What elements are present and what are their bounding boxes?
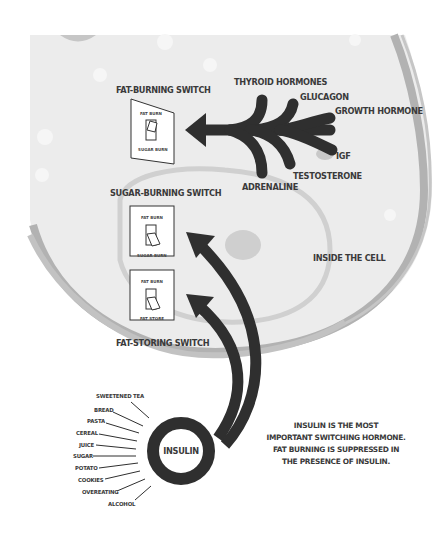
hormone-label: GLUCAGON <box>300 92 349 102</box>
svg-text:FAT BURNING IS SUPPRESSED IN: FAT BURNING IS SUPPRESSED IN <box>273 445 399 454</box>
hormone-label: TESTOSTERONE <box>293 171 362 181</box>
hormone-label: ADRENALINE <box>242 182 298 192</box>
diagram: FAT-BURNING SWITCH FAT BURN SUGAR BURN S… <box>0 0 444 543</box>
switch-title: FAT-STORING SWITCH <box>116 338 210 348</box>
trigger-labels: SWEETENED TEA BREAD PASTA CEREAL JUICE S… <box>73 393 145 507</box>
svg-text:FAT BURN: FAT BURN <box>141 279 163 284</box>
insulin-label: INSULIN <box>163 446 199 456</box>
toggle-icon <box>146 120 157 140</box>
nucleolus <box>225 230 261 260</box>
svg-text:SUGAR BURN: SUGAR BURN <box>137 253 167 258</box>
svg-text:FAT BURN: FAT BURN <box>141 215 163 220</box>
svg-text:FAT STORE: FAT STORE <box>140 316 164 321</box>
switch-title: FAT-BURNING SWITCH <box>116 85 211 95</box>
trigger-label: SUGAR <box>73 453 94 459</box>
trigger-label: OVEREATING <box>82 489 119 495</box>
trigger-label: ALCOHOL <box>108 501 136 507</box>
trigger-label: POTATO <box>75 465 98 471</box>
hormone-label: GROWTH HORMONE <box>335 106 423 116</box>
svg-text:SUGAR BURN: SUGAR BURN <box>138 147 168 152</box>
hormone-label: IGF <box>336 151 350 161</box>
hormone-label: THYROID HORMONES <box>234 77 327 87</box>
insulin-node: INSULIN <box>153 423 209 479</box>
trigger-label: SWEETENED TEA <box>96 393 145 399</box>
svg-text:THE PRESENCE OF INSULIN.: THE PRESENCE OF INSULIN. <box>282 457 391 466</box>
svg-text:INSULIN IS THE MOST: INSULIN IS THE MOST <box>294 421 379 430</box>
svg-text:IMPORTANT SWITCHING HORMONE.: IMPORTANT SWITCHING HORMONE. <box>266 433 406 442</box>
insulin-note: INSULIN IS THE MOST IMPORTANT SWITCHING … <box>266 421 406 466</box>
trigger-label: BREAD <box>94 407 114 413</box>
trigger-label: CEREAL <box>76 430 99 436</box>
trigger-label: PASTA <box>87 418 106 424</box>
cell <box>30 34 432 356</box>
cell-label: INSIDE THE CELL <box>313 253 386 263</box>
svg-text:FAT BURN: FAT BURN <box>140 111 162 116</box>
switch-title: SUGAR-BURNING SWITCH <box>110 188 222 198</box>
trigger-label: JUICE <box>78 442 95 449</box>
insulin-triggers <box>93 402 151 500</box>
trigger-label: COOKIES <box>78 477 104 483</box>
